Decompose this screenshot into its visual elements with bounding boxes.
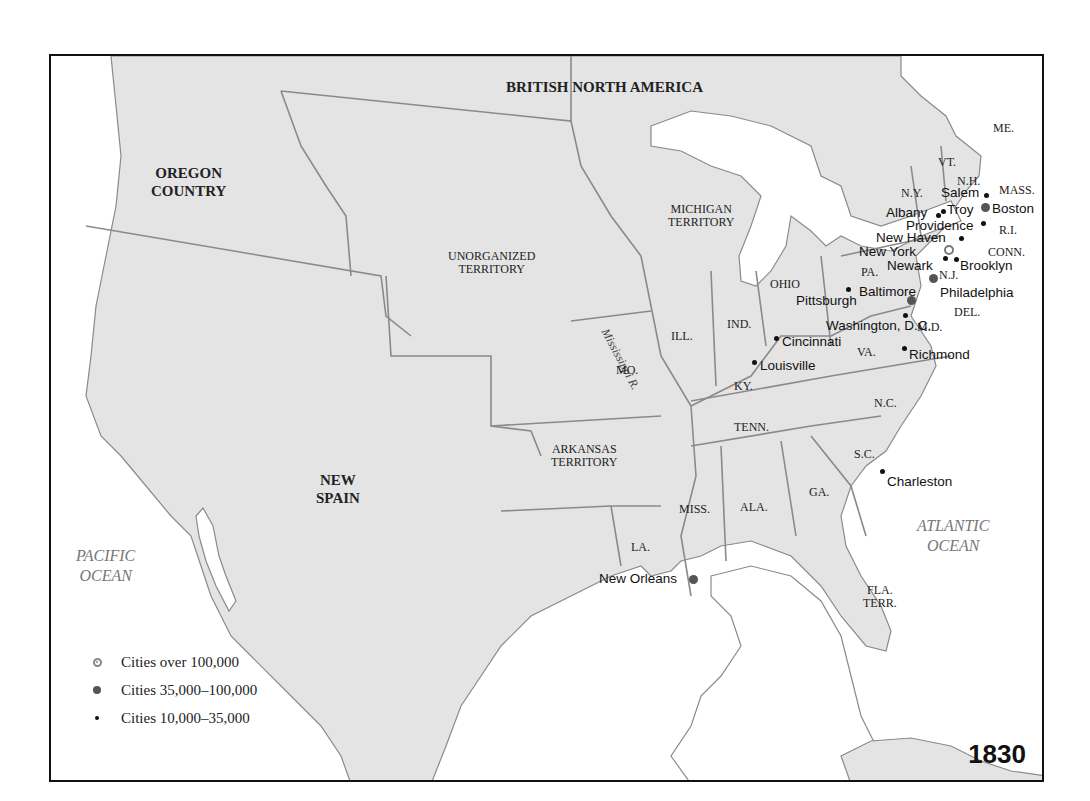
city-dot-new-york — [944, 245, 954, 255]
label-atlantic-line1: ATLANTIC — [917, 516, 989, 536]
legend-label: Cities over 100,000 — [121, 654, 239, 671]
city-dot-new-haven — [959, 236, 964, 241]
city-dot-brooklyn — [954, 257, 959, 262]
label-atlantic-line2: OCEAN — [917, 536, 989, 556]
city-dot-troy — [941, 209, 946, 214]
label-michigan-line2: TERRITORY — [668, 216, 734, 229]
label-unorganized-territory: UNORGANIZED TERRITORY — [448, 250, 535, 276]
city-dot-louisville — [752, 360, 757, 365]
label-atlantic-ocean: ATLANTIC OCEAN — [917, 516, 989, 556]
label-state-del: DEL. — [954, 306, 980, 319]
city-charleston: Charleston — [887, 475, 952, 489]
label-unorganized-line2: TERRITORY — [448, 263, 535, 276]
label-state-vt: VT. — [938, 156, 956, 169]
legend-row-over-100000: Cities over 100,000 — [87, 648, 257, 676]
label-state-la: LA. — [631, 541, 650, 554]
label-state-ky: KY. — [734, 380, 753, 393]
label-state-va: VA. — [857, 346, 876, 359]
label-oregon-line1: OREGON — [151, 164, 226, 182]
city-richmond: Richmond — [909, 348, 970, 362]
city-boston: Boston — [992, 202, 1034, 216]
city-dot-cincinnati — [774, 336, 779, 341]
map-year: 1830 — [968, 739, 1026, 770]
city-louisville: Louisville — [760, 359, 816, 373]
label-state-mo: MO. — [616, 364, 638, 377]
label-new-spain: NEW SPAIN — [316, 471, 360, 507]
city-dot-philadelphia — [929, 274, 938, 283]
label-michigan-territory: MICHIGAN TERRITORY — [668, 203, 734, 229]
city-salem: Salem — [941, 186, 979, 200]
label-pacific-ocean: PACIFIC OCEAN — [76, 546, 135, 586]
city-new-haven: New Haven — [876, 231, 946, 245]
label-state-ga: GA. — [809, 486, 829, 499]
city-cincinnati: Cincinnati — [782, 335, 841, 349]
label-state-nj: N.J. — [939, 269, 958, 282]
label-state-mass: MASS. — [999, 184, 1035, 197]
label-state-sc: S.C. — [854, 448, 875, 461]
city-dot-richmond — [902, 346, 907, 351]
legend-label: Cities 35,000–100,000 — [121, 682, 257, 699]
city-brooklyn: Brooklyn — [960, 259, 1013, 273]
label-state-tenn: TENN. — [734, 421, 769, 434]
label-florida-territory: FLA. TERR. — [863, 584, 897, 610]
city-dot-providence — [981, 221, 986, 226]
label-pacific-line1: PACIFIC — [76, 546, 135, 566]
legend-row-35000-100000: Cities 35,000–100,000 — [87, 676, 257, 704]
city-new-orleans: New Orleans — [599, 572, 677, 586]
city-baltimore: Baltimore — [859, 285, 916, 299]
label-arkansas-line2: TERRITORY — [551, 456, 617, 469]
label-fla-line2: TERR. — [863, 597, 897, 610]
city-dot-newark — [943, 256, 948, 261]
city-new-york: New York — [859, 245, 916, 259]
city-dot-pittsburgh — [846, 287, 851, 292]
label-arkansas-territory: ARKANSAS TERRITORY — [551, 443, 617, 469]
city-dot-new-orleans — [689, 575, 698, 584]
label-pacific-line2: OCEAN — [76, 566, 135, 586]
label-new-spain-line2: SPAIN — [316, 489, 360, 507]
map-frame: BRITISH NORTH AMERICA OREGON COUNTRY NEW… — [49, 54, 1044, 782]
label-state-pa: PA. — [861, 266, 878, 279]
cities-10000-35000-icon — [87, 716, 107, 720]
city-newark: Newark — [887, 259, 933, 273]
label-new-spain-line1: NEW — [316, 471, 360, 489]
cities-over-100000-icon — [87, 658, 107, 667]
label-state-miss: MISS. — [679, 503, 710, 516]
city-dot-charleston — [880, 469, 885, 474]
label-state-ill: ILL. — [671, 330, 693, 343]
cities-35000-100000-icon — [87, 686, 107, 694]
label-state-ohio: OHIO — [770, 278, 800, 291]
label-british-north-america: BRITISH NORTH AMERICA — [506, 78, 703, 96]
label-state-ny: N.Y. — [901, 187, 923, 200]
map-legend: Cities over 100,000 Cities 35,000–100,00… — [87, 648, 257, 732]
label-oregon-country: OREGON COUNTRY — [151, 164, 226, 200]
label-state-ind: IND. — [727, 318, 751, 331]
city-dot-boston — [981, 203, 990, 212]
label-state-me: ME. — [993, 122, 1014, 135]
city-philadelphia: Philadelphia — [940, 286, 1014, 300]
city-dot-salem — [984, 193, 989, 198]
legend-label: Cities 10,000–35,000 — [121, 710, 250, 727]
label-state-ala: ALA. — [740, 501, 768, 514]
label-state-nc: N.C. — [874, 397, 897, 410]
label-state-ri: R.I. — [999, 224, 1017, 237]
city-troy: Troy — [947, 203, 974, 217]
legend-row-10000-35000: Cities 10,000–35,000 — [87, 704, 257, 732]
label-oregon-line2: COUNTRY — [151, 182, 226, 200]
city-washington: Washington, D.C. — [826, 319, 931, 333]
city-pittsburgh: Pittsburgh — [796, 294, 857, 308]
